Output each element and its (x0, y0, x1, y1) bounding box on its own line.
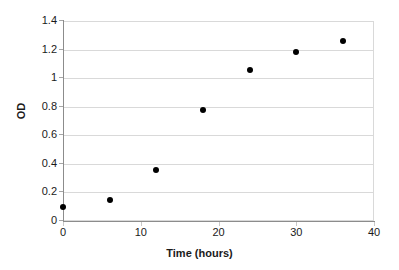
x-axis-tick-label: 30 (276, 227, 316, 238)
data-point (340, 38, 346, 44)
y-axis-title: OD (15, 103, 27, 120)
y-axis-tick-label: 0.8 (5, 101, 57, 112)
gridline (64, 107, 373, 108)
y-axis-tick-label: 1 (5, 72, 57, 83)
y-axis-tick-label: 0.4 (5, 158, 57, 169)
y-axis-tick-label: 0.6 (5, 129, 57, 140)
gridline (64, 135, 373, 136)
x-axis-title: Time (hours) (0, 247, 399, 259)
y-axis-tick (59, 220, 63, 221)
y-axis-tick-label: 0 (5, 215, 57, 226)
data-point (107, 197, 113, 203)
gridline (64, 78, 373, 79)
gridline (64, 50, 373, 51)
y-axis-tick (59, 20, 63, 21)
x-axis-tick (219, 222, 220, 226)
gridline (64, 164, 373, 165)
data-point (200, 107, 206, 113)
x-axis-tick-label: 20 (199, 227, 239, 238)
y-axis-tick-label: 1.2 (5, 44, 57, 55)
y-axis-tick (59, 163, 63, 164)
y-axis-tick-label: 0.2 (5, 186, 57, 197)
x-axis-tick-label: 40 (354, 227, 394, 238)
data-point (247, 67, 253, 73)
x-axis-tick (141, 222, 142, 226)
x-axis-tick (296, 222, 297, 226)
plot-area (63, 21, 374, 221)
x-axis-tick-label: 10 (121, 227, 161, 238)
x-axis-tick (374, 222, 375, 226)
x-axis-tick-label: 0 (43, 227, 83, 238)
y-axis-tick-label: 1.4 (5, 15, 57, 26)
data-point (153, 167, 159, 173)
y-axis-tick (59, 106, 63, 107)
y-axis-tick (59, 134, 63, 135)
y-axis-line (63, 20, 64, 222)
y-axis-tick (59, 191, 63, 192)
scatter-chart: 00.20.40.60.811.21.4 010203040 Time (hou… (0, 0, 399, 270)
x-axis-tick (63, 222, 64, 226)
y-axis-tick (59, 49, 63, 50)
gridline (64, 192, 373, 193)
y-axis-tick (59, 77, 63, 78)
